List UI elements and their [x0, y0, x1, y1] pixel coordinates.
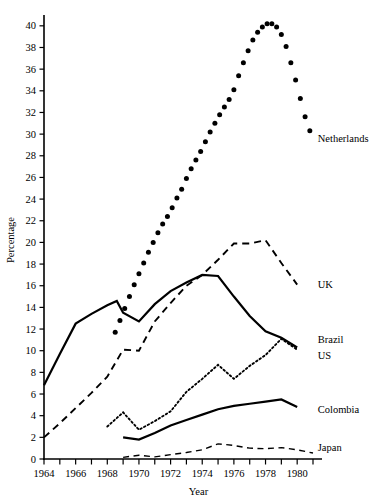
y-tick-label: 30	[26, 129, 37, 140]
series-label-colombia: Colombia	[318, 404, 360, 415]
data-point	[236, 73, 241, 78]
series-uk	[44, 240, 297, 437]
y-tick-label: 4	[31, 410, 37, 421]
data-point	[288, 60, 293, 65]
series-colombia	[123, 399, 297, 439]
data-point	[165, 214, 170, 219]
y-axis-title: Percentage	[5, 217, 16, 263]
data-point	[208, 129, 213, 134]
series-label-us: US	[318, 350, 332, 361]
y-tick-label: 8	[31, 367, 36, 378]
y-tick-label: 6	[31, 389, 36, 400]
chart-container: 0246810121416182022242628303234363840 19…	[0, 0, 374, 504]
data-point	[155, 230, 160, 235]
data-point	[241, 60, 246, 65]
data-point	[217, 112, 222, 117]
line-chart: 0246810121416182022242628303234363840 19…	[0, 0, 374, 504]
data-point	[160, 222, 165, 227]
data-point	[227, 97, 232, 102]
data-point	[246, 48, 251, 53]
data-point	[260, 24, 265, 29]
x-tick-label: 1968	[97, 468, 118, 479]
series-label-uk: UK	[318, 279, 334, 290]
data-point	[136, 271, 141, 276]
data-point	[298, 96, 303, 101]
data-point	[274, 24, 279, 29]
y-tick-label: 38	[26, 42, 37, 53]
x-tick-label: 1964	[34, 468, 56, 479]
data-point	[203, 139, 208, 144]
series-label-brazil: Brazil	[318, 334, 344, 345]
x-tick-label: 1966	[65, 468, 86, 479]
series-label-netherlands: Netherlands	[318, 133, 369, 144]
series-line	[44, 240, 297, 437]
series-group	[44, 21, 313, 457]
data-point	[127, 294, 132, 299]
y-tick-label: 2	[31, 432, 36, 443]
y-tick-label: 12	[26, 324, 37, 335]
x-axis-tick-marks	[44, 459, 313, 465]
y-tick-label: 18	[26, 259, 37, 270]
data-point	[189, 166, 194, 171]
x-tick-label: 1976	[223, 468, 244, 479]
y-tick-label: 10	[26, 345, 37, 356]
data-point	[132, 282, 137, 287]
data-point	[146, 250, 151, 255]
y-tick-label: 16	[26, 280, 37, 291]
y-tick-label: 36	[26, 64, 37, 75]
y-tick-label: 0	[31, 454, 36, 465]
x-tick-label: 1974	[192, 468, 214, 479]
series-labels-group: NetherlandsUKBrazilUSColombiaJapan	[318, 133, 369, 453]
data-point	[198, 149, 203, 154]
y-tick-label: 20	[26, 237, 37, 248]
data-point	[113, 330, 118, 335]
data-point	[265, 21, 270, 26]
y-tick-label: 28	[26, 150, 37, 161]
x-tick-label: 1980	[287, 468, 308, 479]
data-point	[170, 205, 175, 210]
y-tick-label: 40	[26, 20, 37, 31]
data-point	[293, 77, 298, 82]
series-line	[123, 444, 313, 458]
y-tick-label: 24	[26, 194, 37, 205]
series-line	[107, 339, 297, 430]
data-point	[179, 187, 184, 192]
series-line	[44, 275, 297, 385]
y-tick-label: 34	[26, 85, 37, 96]
data-point	[269, 21, 274, 26]
series-netherlands	[113, 21, 313, 335]
data-point	[222, 105, 227, 110]
data-point	[174, 196, 179, 201]
series-us	[44, 275, 297, 385]
data-point	[231, 87, 236, 92]
data-point	[117, 318, 122, 323]
data-point	[255, 30, 260, 35]
data-point	[284, 44, 289, 49]
data-point	[184, 176, 189, 181]
x-axis-title: Year	[189, 486, 209, 497]
data-point	[303, 114, 308, 119]
y-tick-label: 22	[26, 215, 37, 226]
data-point	[307, 128, 312, 133]
data-point	[279, 32, 284, 37]
series-line	[123, 399, 297, 439]
y-axis-tick-labels: 0246810121416182022242628303234363840	[26, 20, 37, 464]
data-point	[141, 260, 146, 265]
x-tick-label: 1972	[160, 468, 181, 479]
series-brazil	[107, 339, 297, 430]
x-tick-label: 1970	[128, 468, 149, 479]
y-tick-label: 14	[26, 302, 37, 313]
data-point	[212, 121, 217, 126]
x-axis-tick-labels: 196419661968197019721974197619781980	[34, 468, 308, 479]
data-point	[151, 240, 156, 245]
series-japan	[123, 444, 313, 458]
y-tick-label: 26	[26, 172, 37, 183]
x-tick-label: 1978	[255, 468, 276, 479]
data-point	[250, 37, 255, 42]
data-point	[193, 158, 198, 163]
series-label-japan: Japan	[318, 442, 343, 453]
y-tick-label: 32	[26, 107, 37, 118]
